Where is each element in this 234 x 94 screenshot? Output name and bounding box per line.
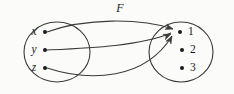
domain-element-label-y: y <box>30 43 37 56</box>
function-diagram: xyz 123 F <box>0 0 234 94</box>
domain-element-dot-x <box>43 30 47 34</box>
codomain-element-dot-3 <box>180 66 184 70</box>
mapping-y-to-1 <box>47 33 171 50</box>
codomain-element-label-1: 1 <box>188 25 194 37</box>
domain-element-dot-y <box>43 48 47 52</box>
domain-element-group: xyz <box>30 25 47 73</box>
mapping-z-to-1 <box>47 36 172 76</box>
function-name-label: F <box>115 1 124 15</box>
codomain-element-label-2: 2 <box>190 43 196 55</box>
codomain-element-dot-1 <box>178 30 182 34</box>
domain-element-label-x: x <box>30 25 37 37</box>
diagram-canvas: xyz 123 F <box>0 0 234 94</box>
codomain-element-label-3: 3 <box>190 61 196 73</box>
domain-element-label-z: z <box>31 61 37 73</box>
codomain-element-group: 123 <box>178 25 196 73</box>
domain-element-dot-z <box>43 66 47 70</box>
codomain-element-dot-2 <box>180 48 184 52</box>
